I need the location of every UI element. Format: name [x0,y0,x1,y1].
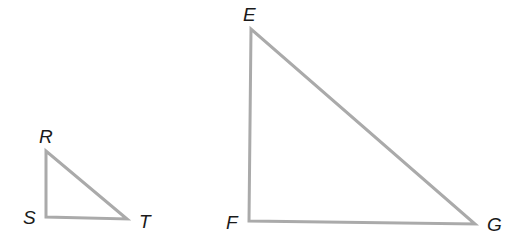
vertex-label-g: G [487,215,502,234]
similar-triangles-diagram [0,0,524,249]
triangle-rst [46,151,127,219]
vertex-label-r: R [39,127,53,146]
vertex-label-e: E [243,5,256,24]
vertex-label-f: F [226,213,238,232]
triangle-efg [249,29,475,224]
vertex-label-t: T [139,212,151,231]
vertex-label-s: S [23,208,36,227]
